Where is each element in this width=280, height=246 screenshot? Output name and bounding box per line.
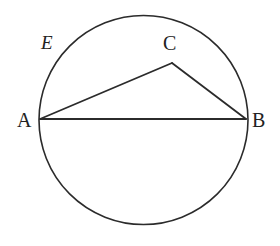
vertex-label-c: C xyxy=(163,33,176,53)
arc-label-e: E xyxy=(41,33,53,52)
vertex-label-b: B xyxy=(252,110,265,130)
geometry-figure: A B C E xyxy=(0,0,280,246)
vertex-label-a: A xyxy=(17,110,31,130)
